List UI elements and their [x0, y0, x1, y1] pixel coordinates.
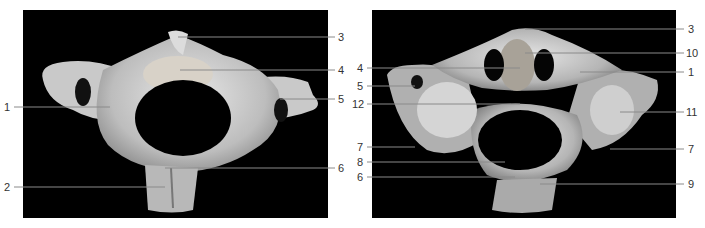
- label-left-1: 1: [4, 101, 10, 113]
- label-right-10: 10: [686, 47, 698, 59]
- label-right-6: 6: [357, 171, 363, 183]
- label-right-5: 5: [357, 80, 363, 92]
- right-vertebra-photo: [372, 10, 676, 218]
- label-left-4: 4: [338, 64, 344, 76]
- label-right-11: 11: [686, 106, 697, 118]
- label-right-8: 8: [357, 156, 363, 168]
- label-left-2: 2: [4, 181, 10, 193]
- vertebra-inferior-illustration: [372, 10, 676, 218]
- label-left-3: 3: [338, 31, 344, 43]
- label-left-6: 6: [338, 162, 344, 174]
- label-right-7a: 7: [357, 141, 363, 153]
- label-right-3: 3: [688, 23, 694, 35]
- label-right-9: 9: [688, 178, 694, 190]
- label-right-1: 1: [688, 66, 694, 78]
- label-left-5: 5: [338, 93, 344, 105]
- label-right-7b: 7: [688, 143, 694, 155]
- label-right-4: 4: [357, 62, 363, 74]
- left-vertebra-photo: [23, 10, 328, 218]
- vertebra-superior-illustration: [23, 10, 328, 218]
- label-right-12: 12: [352, 98, 364, 110]
